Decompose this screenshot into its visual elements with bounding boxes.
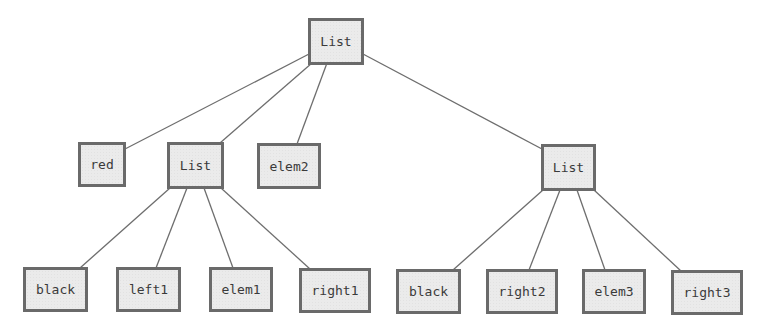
node-label: elem3	[594, 285, 633, 298]
node-label: elem2	[269, 160, 308, 173]
node-label: List	[180, 159, 211, 172]
node-red: red	[78, 142, 126, 187]
node-label: red	[90, 158, 113, 171]
node-label: black	[409, 285, 448, 298]
node-black-left: black	[23, 267, 88, 312]
node-left1: left1	[116, 267, 181, 312]
edge-root-list-right	[363, 54, 542, 149]
node-right2: right2	[486, 269, 558, 314]
node-elem1: elem1	[209, 267, 273, 312]
node-label: elem1	[221, 283, 260, 296]
node-right3: right3	[671, 270, 743, 315]
node-label: right2	[499, 285, 546, 298]
node-label: List	[320, 35, 351, 48]
node-label: left1	[129, 283, 168, 296]
edge-list-left-black	[80, 188, 170, 268]
node-label: List	[553, 161, 584, 174]
edge-list-right-elem3	[577, 190, 605, 270]
edge-list-right-right3	[594, 190, 681, 271]
edge-list-left-elem1	[204, 188, 233, 268]
edge-list-left-left1	[156, 188, 187, 268]
node-black-right: black	[396, 269, 461, 314]
edge-root-list-left	[220, 63, 312, 143]
edge-root-red	[125, 54, 309, 149]
node-elem3: elem3	[582, 269, 646, 314]
node-label: black	[36, 283, 75, 296]
tree-diagram: List red List elem2 List black left1 ele…	[0, 0, 758, 329]
edge-list-left-right1	[221, 188, 310, 269]
node-label: right3	[684, 286, 731, 299]
edge-root-elem2	[297, 63, 327, 144]
node-right1: right1	[299, 268, 371, 313]
node-list-right: List	[541, 144, 596, 191]
node-list-left: List	[167, 142, 224, 189]
edge-list-right-black	[453, 190, 543, 270]
node-label: right1	[312, 284, 359, 297]
node-elem2: elem2	[257, 143, 321, 189]
node-root-list: List	[308, 18, 364, 65]
edge-list-right-right2	[529, 190, 560, 270]
